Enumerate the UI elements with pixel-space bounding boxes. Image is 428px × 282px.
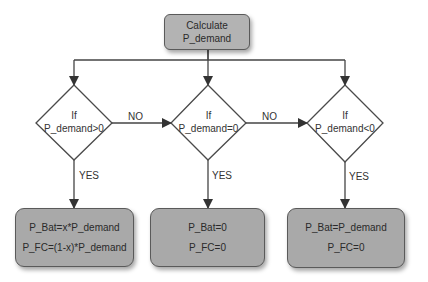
- start-label-line1: Calculate: [186, 19, 228, 32]
- decision-1-line2: P_demand>0: [36, 122, 112, 135]
- edge-label-yes-2: YES: [212, 170, 232, 181]
- decision-2-line2: P_demand=0: [171, 122, 246, 135]
- outcome-3-line2: P_FC=0: [328, 238, 365, 258]
- outcome-1-line1: P_Bat=x*P_demand: [29, 218, 119, 238]
- outcome-2-line2: P_FC=0: [189, 238, 226, 258]
- outcome-1-line2: P_FC=(1-x)*P_demand: [22, 238, 126, 258]
- edge-label-yes-1: YES: [79, 170, 99, 181]
- outcome-2-line1: P_Bat=0: [188, 218, 227, 238]
- decision-2-line1: If: [171, 109, 246, 122]
- start-label-line2: P_demand: [183, 32, 231, 45]
- decision-1-line1: If: [36, 109, 112, 122]
- outcome-box-1: P_Bat=x*P_demand P_FC=(1-x)*P_demand: [15, 208, 134, 267]
- start-process-box: Calculate P_demand: [164, 14, 250, 50]
- outcome-3-line1: P_Bat=P_demand: [305, 218, 386, 238]
- edge-label-no-2: NO: [262, 111, 277, 122]
- decision-3-label: If P_demand<0: [307, 109, 383, 135]
- edge-label-yes-3: YES: [349, 171, 369, 182]
- decision-2-label: If P_demand=0: [171, 109, 246, 135]
- edge-label-no-1: NO: [128, 111, 143, 122]
- outcome-box-3: P_Bat=P_demand P_FC=0: [287, 208, 405, 268]
- outcome-box-2: P_Bat=0 P_FC=0: [150, 208, 265, 267]
- decision-3-line2: P_demand<0: [307, 122, 383, 135]
- decision-3-line1: If: [307, 109, 383, 122]
- decision-1-label: If P_demand>0: [36, 109, 112, 135]
